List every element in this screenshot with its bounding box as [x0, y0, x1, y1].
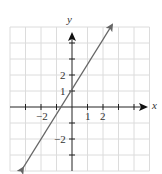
grid: [10, 27, 150, 171]
x-tick-label-2: 2: [100, 111, 106, 122]
y-tick-label-2: 2: [60, 70, 66, 81]
y-axis: [69, 34, 75, 171]
x-axis-label: x: [152, 100, 157, 111]
y-tick-label-neg2: −2: [54, 134, 66, 145]
plotted-line: [23, 25, 112, 168]
x-axis: [10, 104, 146, 110]
y-axis-label: y: [67, 14, 72, 25]
coordinate-graph: [0, 0, 162, 174]
y-tick-label-1: 1: [60, 86, 66, 97]
x-tick-label-1: 1: [85, 111, 91, 122]
x-tick-label-neg2: −2: [36, 111, 48, 122]
